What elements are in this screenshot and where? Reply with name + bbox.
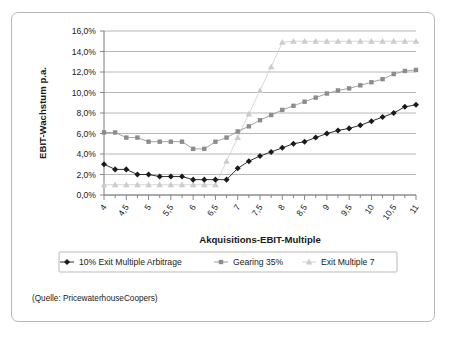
data-point-marker	[246, 158, 252, 164]
legend-label: Gearing 35%	[233, 257, 284, 267]
data-point-marker	[156, 181, 163, 187]
data-point-marker	[168, 181, 175, 187]
data-point-marker	[145, 181, 152, 187]
data-point-marker	[402, 38, 409, 44]
y-tick-label: 2,0%	[76, 170, 96, 180]
legend-item[interactable]: 10% Exit Multiple Arbitrage	[60, 257, 182, 267]
data-point-marker	[324, 130, 330, 136]
x-tick-label: 8	[276, 202, 287, 212]
data-point-marker	[312, 38, 319, 44]
data-point-marker	[268, 64, 275, 70]
data-point-marker	[414, 68, 418, 72]
data-point-marker	[191, 147, 195, 151]
legend-marker-diamond-icon	[64, 259, 70, 265]
data-point-marker	[202, 147, 206, 151]
data-point-marker	[336, 88, 340, 92]
data-point-marker	[279, 145, 285, 151]
data-point-marker	[325, 91, 329, 95]
data-point-marker	[301, 38, 308, 44]
data-point-marker	[146, 171, 152, 177]
data-point-marker	[113, 130, 117, 134]
y-axis-label: EBIT-Wachstum p.a.	[37, 67, 48, 159]
data-point-marker	[357, 122, 363, 128]
data-point-marker	[291, 104, 295, 108]
data-point-marker	[169, 140, 173, 144]
y-tick-label: 14,0%	[72, 47, 97, 57]
data-point-marker	[302, 139, 308, 145]
data-point-marker	[324, 38, 331, 44]
data-point-marker	[380, 114, 386, 120]
x-axis-label: Akquisitions-EBIT-Multiple	[199, 234, 321, 245]
data-point-marker	[146, 140, 150, 144]
data-point-marker	[402, 104, 408, 110]
data-series-layer	[101, 38, 420, 187]
x-tick-label: 9	[321, 202, 332, 212]
x-tick-label: 5,5	[160, 202, 175, 218]
legend-label: Exit Multiple 7	[321, 257, 375, 267]
legend-item[interactable]: Exit Multiple 7	[302, 257, 375, 267]
data-point-marker	[347, 86, 351, 90]
data-point-marker	[368, 38, 375, 44]
y-tick-label: 4,0%	[76, 149, 96, 159]
data-point-marker	[379, 38, 386, 44]
legend-item[interactable]: Gearing 35%	[214, 257, 284, 267]
data-point-marker	[223, 158, 230, 164]
x-tick-label: 6	[187, 202, 198, 212]
data-point-marker	[213, 140, 217, 144]
data-point-marker	[246, 111, 253, 117]
y-tick-label: 12,0%	[72, 67, 97, 77]
chart-container: 0,0%2,0%4,0%6,0%8,0%10,0%12,0%14,0%16,0%…	[12, 13, 436, 323]
data-point-marker	[236, 129, 240, 133]
data-point-marker	[201, 177, 207, 183]
data-point-marker	[391, 110, 397, 116]
data-point-marker	[258, 118, 262, 122]
data-point-marker	[335, 127, 341, 133]
data-point-marker	[269, 113, 273, 117]
data-point-marker	[392, 72, 396, 76]
data-point-marker	[380, 77, 384, 81]
chart-frame: 0,0%2,0%4,0%6,0%8,0%10,0%12,0%14,0%16,0%…	[11, 12, 435, 322]
data-point-marker	[123, 181, 130, 187]
data-point-marker	[390, 38, 397, 44]
gridlines	[104, 31, 416, 195]
data-point-marker	[101, 181, 108, 187]
data-series	[101, 38, 420, 187]
data-point-marker	[369, 80, 373, 84]
x-tick-label: 4	[98, 202, 109, 212]
y-tick-label: 6,0%	[76, 129, 96, 139]
legend-marker-square-icon	[219, 260, 223, 264]
data-point-marker	[112, 181, 119, 187]
data-point-marker	[257, 87, 264, 93]
data-point-marker	[224, 135, 228, 139]
x-tick-label: 5	[142, 202, 153, 212]
data-point-marker	[335, 38, 342, 44]
data-point-marker	[124, 135, 128, 139]
x-tick-label: 4,5	[116, 202, 131, 218]
y-tick-label: 8,0%	[76, 108, 96, 118]
data-point-marker	[234, 134, 241, 140]
x-tick-label: 6,5	[205, 202, 220, 218]
x-tick-label: 8,5	[294, 202, 309, 218]
y-tick-label: 10,0%	[72, 88, 97, 98]
data-point-marker	[413, 102, 419, 108]
data-point-marker	[247, 124, 251, 128]
data-point-marker	[212, 177, 218, 183]
legend-label: 10% Exit Multiple Arbitrage	[79, 257, 182, 267]
data-point-marker	[112, 166, 118, 172]
data-point-marker	[358, 83, 362, 87]
data-point-marker	[403, 69, 407, 73]
data-point-marker	[280, 108, 284, 112]
x-tick-label: 7,5	[250, 202, 265, 218]
x-tick-label: 11	[407, 202, 420, 215]
data-point-marker	[134, 181, 141, 187]
data-point-marker	[290, 141, 296, 147]
data-point-marker	[179, 181, 186, 187]
x-tick-label: 10	[362, 202, 376, 216]
x-axis-ticks: 44,555,566,577,588,599,51010,511	[98, 195, 421, 222]
data-point-marker	[101, 161, 107, 167]
data-point-marker	[313, 135, 319, 141]
data-point-marker	[158, 140, 162, 144]
y-tick-label: 0,0%	[76, 190, 96, 200]
chart-legend: 10% Exit Multiple ArbitrageGearing 35%Ex…	[59, 252, 397, 272]
x-tick-label: 7	[231, 202, 242, 212]
